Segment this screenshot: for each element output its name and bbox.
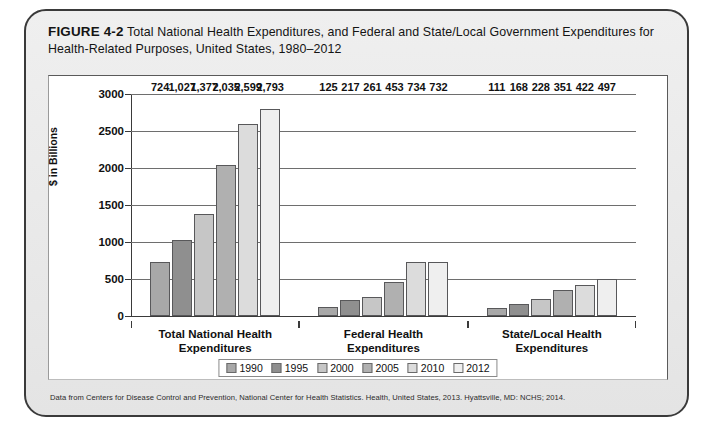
bar-group: 111168228351422497: [468, 94, 636, 316]
y-axis-tick-label: 2000: [98, 162, 124, 174]
bar-value-label: 228: [532, 81, 550, 93]
figure-caption-text: Total National Health Expenditures, and …: [48, 25, 654, 56]
bar-value-label: 724: [151, 81, 169, 93]
bar[interactable]: 422: [575, 285, 595, 316]
figure-number: FIGURE 4-2: [48, 24, 124, 39]
bar-value-label: 168: [510, 81, 528, 93]
bar-wrapper: 732: [428, 94, 448, 316]
bar[interactable]: 261: [362, 297, 382, 316]
bar[interactable]: 125: [318, 307, 338, 316]
chart-plot-panel: $ in Billions 050010001500200025003000 7…: [48, 75, 668, 380]
legend-item[interactable]: 1990: [226, 362, 262, 374]
bar-wrapper: 2,599: [238, 94, 258, 316]
bar[interactable]: 732: [428, 262, 448, 316]
legend-swatch: [272, 363, 282, 373]
y-axis-tick-label: 1500: [98, 199, 124, 211]
y-axis-tick-label: 2500: [98, 125, 124, 137]
category-divider-tick: [468, 321, 469, 328]
legend-item[interactable]: 2000: [317, 362, 353, 374]
figure-caption: FIGURE 4-2 Total National Health Expendi…: [48, 23, 661, 58]
legend-label: 1990: [239, 362, 262, 374]
bar-groups: 7241,0271,3772,0352,5992,793125217261453…: [131, 94, 636, 316]
chart-axis-area: 050010001500200025003000 7241,0271,3772,…: [131, 94, 636, 316]
bar[interactable]: 2,599: [238, 124, 258, 316]
bar-wrapper: 228: [531, 94, 551, 316]
category-divider-tick: [131, 321, 132, 328]
y-axis-label: $ in Billions: [47, 127, 59, 186]
bar-wrapper: 453: [384, 94, 404, 316]
bar-wrapper: 111: [487, 94, 507, 316]
category-label-text: Total National Health Expenditures: [158, 328, 272, 354]
legend-swatch: [408, 363, 418, 373]
bar[interactable]: 1,377: [194, 214, 214, 316]
chart-legend: 199019952000200520102012: [218, 359, 497, 377]
bar-value-label: 734: [407, 81, 425, 93]
bar-group: 7241,0271,3772,0352,5992,793: [131, 94, 299, 316]
x-axis-category-label: Total National Health Expenditures: [131, 321, 299, 355]
bar[interactable]: 724: [150, 262, 170, 316]
bar-wrapper: 1,377: [194, 94, 214, 316]
figure-source-note: Data from Centers for Disease Control an…: [50, 392, 663, 403]
x-axis-category-label: State/Local Health Expenditures: [468, 321, 636, 355]
legend-swatch: [317, 363, 327, 373]
bar-wrapper: 1,027: [172, 94, 192, 316]
bar[interactable]: 111: [487, 308, 507, 316]
legend-label: 2000: [330, 362, 353, 374]
bar-value-label: 351: [554, 81, 572, 93]
bar-value-label: 217: [341, 81, 359, 93]
bar[interactable]: 228: [531, 299, 551, 316]
bar-wrapper: 168: [509, 94, 529, 316]
bar[interactable]: 168: [509, 304, 529, 316]
category-divider-tick: [299, 321, 300, 328]
bar[interactable]: 497: [597, 279, 617, 316]
legend-label: 2005: [376, 362, 399, 374]
bar[interactable]: 217: [340, 300, 360, 316]
legend-swatch: [226, 363, 236, 373]
bar[interactable]: 1,027: [172, 240, 192, 316]
x-axis-line: [131, 316, 636, 317]
y-axis-tick-label: 1000: [98, 236, 124, 248]
bar[interactable]: 2,793: [260, 109, 280, 316]
bar-value-label: 2,793: [256, 81, 284, 93]
category-divider-tick: [635, 321, 636, 328]
bar[interactable]: 351: [553, 290, 573, 316]
bar-value-label: 497: [598, 81, 616, 93]
bar-wrapper: 217: [340, 94, 360, 316]
legend-item[interactable]: 2012: [453, 362, 489, 374]
x-axis-category-labels: Total National Health ExpendituresFedera…: [131, 321, 636, 355]
figure-card: FIGURE 4-2 Total National Health Expendi…: [24, 9, 689, 417]
category-label-text: State/Local Health Expenditures: [502, 328, 602, 354]
bar-wrapper: 2,793: [260, 94, 280, 316]
bar[interactable]: 453: [384, 282, 404, 316]
bar-wrapper: 734: [406, 94, 426, 316]
bar-wrapper: 422: [575, 94, 595, 316]
bar-group: 125217261453734732: [299, 94, 467, 316]
legend-label: 2012: [466, 362, 489, 374]
legend-label: 2010: [421, 362, 444, 374]
bar-value-label: 261: [363, 81, 381, 93]
bar[interactable]: 734: [406, 262, 426, 316]
bar-value-label: 111: [488, 81, 505, 93]
x-axis-category-label: Federal Health Expenditures: [299, 321, 467, 355]
bar-wrapper: 497: [597, 94, 617, 316]
legend-label: 1995: [285, 362, 308, 374]
legend-item[interactable]: 1995: [272, 362, 308, 374]
legend-swatch: [363, 363, 373, 373]
y-axis-tick-label: 0: [118, 310, 124, 322]
category-label-text: Federal Health Expenditures: [344, 328, 423, 354]
legend-item[interactable]: 2010: [408, 362, 444, 374]
legend-swatch: [453, 363, 463, 373]
bar-wrapper: 2,035: [216, 94, 236, 316]
bar-wrapper: 125: [318, 94, 338, 316]
bar-wrapper: 261: [362, 94, 382, 316]
bar-wrapper: 351: [553, 94, 573, 316]
bar-wrapper: 724: [150, 94, 170, 316]
bar-value-label: 453: [385, 81, 403, 93]
bar[interactable]: 2,035: [216, 165, 236, 316]
bar-value-label: 422: [576, 81, 594, 93]
legend-item[interactable]: 2005: [363, 362, 399, 374]
y-axis-tick-label: 500: [105, 273, 124, 285]
y-axis-tick-label: 3000: [98, 88, 124, 100]
bar-value-label: 125: [319, 81, 337, 93]
bar-value-label: 732: [429, 81, 447, 93]
